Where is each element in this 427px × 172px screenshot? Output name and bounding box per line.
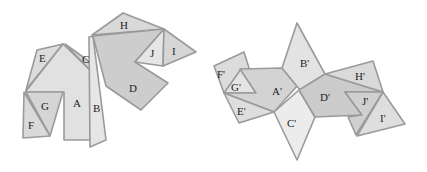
piece-label-a: A xyxy=(73,97,81,109)
piece-label-f-prime: F' xyxy=(217,68,225,80)
piece-i xyxy=(163,29,196,66)
puzzle-diagram: EACGFBHDJI F'G'A'E'B'C'D'H'J'I' xyxy=(0,0,427,172)
piece-label-a-prime: A' xyxy=(272,85,282,97)
piece-label-e: E xyxy=(39,52,46,64)
piece-label-g: G xyxy=(41,100,49,112)
original-figure: EACGFBHDJI xyxy=(23,13,196,147)
piece-label-d-prime: D' xyxy=(320,91,330,103)
transformed-figure: F'G'A'E'B'C'D'H'J'I' xyxy=(214,23,405,160)
piece-label-c-prime: C' xyxy=(287,117,296,129)
piece-label-i: I xyxy=(172,45,176,57)
piece-label-g-prime: G' xyxy=(231,81,241,93)
piece-label-b-prime: B' xyxy=(300,57,309,69)
piece-label-b: B xyxy=(93,102,100,114)
piece-label-j: J xyxy=(150,47,155,59)
piece-label-j-prime: J' xyxy=(362,95,368,107)
piece-label-h-prime: H' xyxy=(355,70,365,82)
piece-label-c: C xyxy=(82,53,89,65)
piece-label-e-prime: E' xyxy=(237,105,246,117)
piece-label-h: H xyxy=(120,19,128,31)
piece-label-f: F xyxy=(28,119,34,131)
piece-label-d: D xyxy=(129,82,137,94)
piece-label-i-prime: I' xyxy=(380,112,386,124)
